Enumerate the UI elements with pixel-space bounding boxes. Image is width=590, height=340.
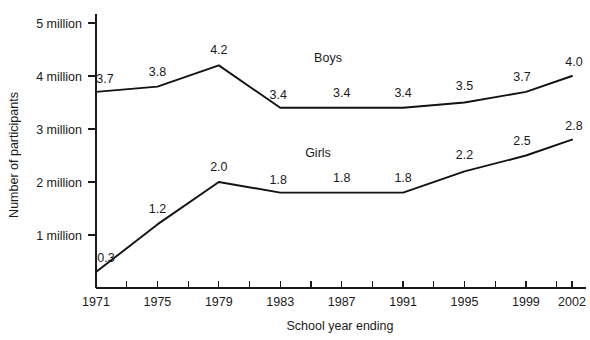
chart-container: 1 million2 million3 million4 million5 mi… bbox=[0, 0, 590, 340]
x-axis-title: School year ending bbox=[286, 319, 393, 333]
x-axis: 197119751979198319871991199519992002 Sch… bbox=[82, 281, 586, 333]
x-tick-label-1991: 1991 bbox=[389, 295, 417, 309]
point-label-boys-1999: 3.7 bbox=[513, 70, 530, 84]
point-label-boys-1975: 3.8 bbox=[149, 65, 166, 79]
point-label-girls-2002: 2.8 bbox=[565, 119, 582, 133]
x-tick-label-1979: 1979 bbox=[205, 295, 233, 309]
x-tick-label-2002: 2002 bbox=[558, 295, 586, 309]
y-tick-label-1: 1 million bbox=[36, 229, 82, 243]
x-tick-label-1995: 1995 bbox=[451, 295, 479, 309]
point-label-girls-1995: 2.2 bbox=[456, 148, 473, 162]
point-label-girls-1999: 2.5 bbox=[513, 134, 530, 148]
point-label-boys-1979: 4.2 bbox=[210, 43, 227, 57]
line-chart: 1 million2 million3 million4 million5 mi… bbox=[0, 0, 590, 340]
point-label-girls-1979: 2.0 bbox=[210, 160, 227, 174]
point-label-boys-1983: 3.4 bbox=[270, 88, 287, 102]
point-label-boys-1971: 3.7 bbox=[96, 72, 113, 86]
y-tick-label-5: 5 million bbox=[36, 17, 82, 31]
x-tick-label-1975: 1975 bbox=[144, 295, 172, 309]
x-tick-label-1971: 1971 bbox=[82, 295, 110, 309]
point-label-boys-1995: 3.5 bbox=[456, 79, 473, 93]
y-tick-labels: 1 million2 million3 million4 million5 mi… bbox=[36, 17, 82, 243]
y-tick-label-2: 2 million bbox=[36, 176, 82, 190]
series-label-boys: Boys bbox=[314, 51, 342, 65]
point-label-boys-2002: 4.0 bbox=[565, 55, 582, 69]
data-point-labels: 3.73.84.23.43.43.43.53.74.00.31.22.01.81… bbox=[96, 43, 582, 265]
y-tick-marks bbox=[88, 23, 96, 235]
x-tick-label-1983: 1983 bbox=[266, 295, 294, 309]
series-label-girls: Girls bbox=[305, 146, 331, 160]
point-label-girls-1987: 1.8 bbox=[333, 171, 350, 185]
point-label-girls-1983: 1.8 bbox=[270, 173, 287, 187]
point-label-girls-1975: 1.2 bbox=[149, 202, 166, 216]
y-axis-title: Number of participants bbox=[7, 92, 21, 218]
x-tick-label-1999: 1999 bbox=[512, 295, 540, 309]
point-label-girls-1971: 0.3 bbox=[97, 251, 114, 265]
series-line-girls bbox=[96, 140, 572, 273]
point-label-girls-1991: 1.8 bbox=[394, 171, 411, 185]
x-tick-label-1987: 1987 bbox=[328, 295, 356, 309]
y-tick-label-3: 3 million bbox=[36, 123, 82, 137]
x-tick-marks bbox=[96, 281, 572, 288]
y-tick-label-4: 4 million bbox=[36, 70, 82, 84]
point-label-boys-1991: 3.4 bbox=[394, 86, 411, 100]
x-tick-labels: 197119751979198319871991199519992002 bbox=[82, 295, 586, 309]
y-axis: 1 million2 million3 million4 million5 mi… bbox=[7, 14, 96, 288]
point-label-boys-1987: 3.4 bbox=[333, 86, 350, 100]
